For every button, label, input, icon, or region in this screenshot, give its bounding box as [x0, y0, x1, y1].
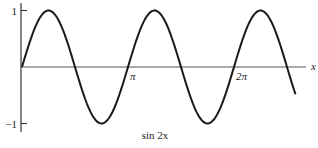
chart-caption: sin 2x [142, 129, 169, 141]
y-tick-label: −1 [5, 118, 17, 130]
x-tick-label: π [130, 70, 136, 82]
x-axis-label: x [310, 60, 316, 72]
x-tick-label: 2π [236, 70, 248, 82]
chart: 1−1 π2π x sin 2x [0, 0, 318, 148]
y-tick-label: 1 [12, 5, 18, 17]
